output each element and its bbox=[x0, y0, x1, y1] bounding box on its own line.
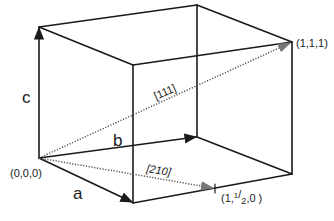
edge-top-right bbox=[197, 5, 292, 42]
edge-back-top bbox=[39, 5, 197, 27]
edge-front-top bbox=[133, 42, 292, 65]
unit-cell-diagram: c b a (0,0,0) (1,1,1) (1,1/2,0 ) [111] [… bbox=[0, 0, 334, 221]
corner-111-label: (1,1,1) bbox=[296, 37, 328, 49]
axis-label-a: a bbox=[73, 184, 83, 203]
edge-bottom-right bbox=[197, 137, 292, 174]
edge-front-bottom bbox=[133, 174, 292, 203]
point-label-prefix: (1, bbox=[221, 192, 234, 204]
point-label-suffix: ,0 ) bbox=[246, 192, 262, 204]
direction-210-vector bbox=[39, 158, 213, 188]
direction-210-label: [210] bbox=[145, 162, 173, 178]
axis-vectors bbox=[39, 28, 196, 202]
edge-top-left bbox=[39, 27, 133, 65]
origin-label: (0,0,0) bbox=[10, 167, 42, 179]
axis-label-b: b bbox=[113, 131, 122, 150]
direction-111-label: [111] bbox=[152, 82, 178, 102]
axis-a-vector bbox=[39, 158, 132, 202]
axis-label-c: c bbox=[22, 88, 31, 107]
point-1-half-0-label: (1,1/2,0 ) bbox=[221, 188, 262, 206]
